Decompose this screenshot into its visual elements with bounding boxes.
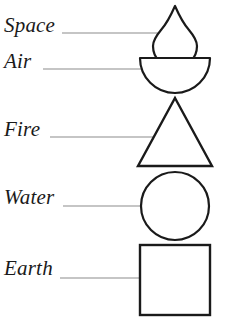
triangle-icon	[138, 98, 212, 166]
label-earth: Earth	[4, 258, 53, 279]
square-icon	[140, 245, 210, 315]
label-fire: Fire	[4, 119, 40, 140]
label-air: Air	[4, 51, 31, 72]
label-space: Space	[4, 15, 55, 36]
half-disc-icon	[140, 58, 210, 93]
five-elements-diagram: Space Air Fire Water Earth	[0, 0, 228, 323]
label-water: Water	[4, 187, 54, 208]
circle-icon	[141, 172, 209, 240]
